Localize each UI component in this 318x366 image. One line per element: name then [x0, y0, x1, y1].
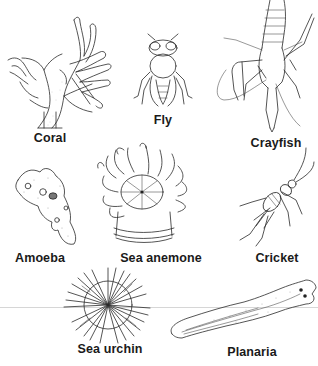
- crayfish-drawing: [217, 0, 314, 132]
- label-fly: Fly: [154, 113, 172, 127]
- label-crayfish: Crayfish: [251, 136, 302, 150]
- label-amoeba: Amoeba: [15, 251, 65, 265]
- label-cricket: Cricket: [255, 251, 298, 265]
- fly-drawing: [134, 34, 192, 106]
- coral-drawing: [8, 17, 111, 128]
- organism-illustration-plate: Coral Fly Crayfish Amoeba Sea anemone Cr…: [0, 0, 318, 366]
- label-coral: Coral: [34, 131, 66, 145]
- label-planaria: Planaria: [227, 345, 276, 359]
- cricket-drawing: [240, 148, 314, 246]
- label-sea-urchin: Sea urchin: [78, 342, 143, 356]
- label-sea-anemone: Sea anemone: [120, 251, 202, 265]
- line-art-drawings: [0, 0, 318, 366]
- planaria-drawing: [171, 280, 316, 338]
- sea-urchin-drawing: [64, 268, 150, 343]
- sea-anemone-drawing: [98, 143, 187, 242]
- amoeba-drawing: [16, 169, 76, 245]
